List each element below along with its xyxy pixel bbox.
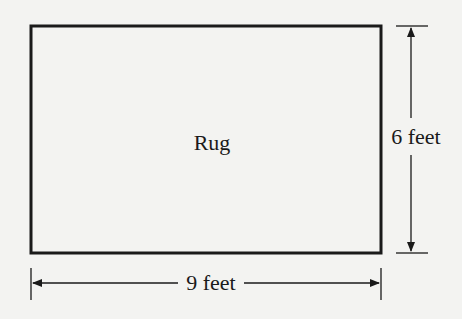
width-label: 9 feet — [186, 270, 235, 295]
rug-diagram: Rug 6 feet 9 feet — [0, 0, 462, 319]
height-dimension: 6 feet — [384, 26, 448, 253]
rug-label: Rug — [194, 130, 231, 155]
height-label: 6 feet — [391, 124, 440, 149]
width-dimension: 9 feet — [31, 268, 381, 300]
